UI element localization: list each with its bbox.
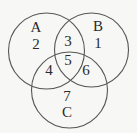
venn-diagram: A 2 B 1 3 5 4 6 7 C (0, 0, 137, 133)
region-a-and-b: 3 (64, 33, 72, 49)
region-c-only: 7 (63, 88, 71, 104)
region-abc: 5 (64, 52, 72, 68)
region-a-and-c: 4 (45, 62, 53, 78)
set-label-a: A (31, 19, 42, 35)
circle-b (55, 13, 129, 87)
set-label-b: B (93, 18, 103, 34)
region-b-and-c: 6 (82, 62, 90, 78)
region-b-only: 1 (94, 35, 102, 51)
set-label-c: C (62, 104, 72, 120)
region-a-only: 2 (32, 36, 40, 52)
